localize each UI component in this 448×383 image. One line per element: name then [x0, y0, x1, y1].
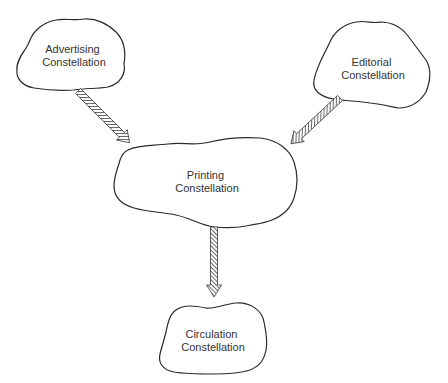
node-circulation: Circulation Constellation — [160, 303, 267, 374]
hatched-arrow-icon — [286, 93, 345, 150]
hatched-arrow-icon — [207, 227, 222, 297]
advertising-label: Advertising Constellation — [42, 43, 106, 68]
arrow-printing-to-circulation — [207, 227, 222, 297]
node-printing: Printing Constellation — [114, 138, 297, 228]
node-editorial: Editorial Constellation — [314, 21, 430, 108]
constellation-diagram: Advertising Constellation Editorial Cons… — [0, 0, 448, 383]
node-advertising: Advertising Constellation — [17, 19, 125, 91]
arrow-editorial-to-printing — [286, 93, 345, 150]
circulation-label: Circulation Constellation — [181, 328, 245, 353]
arrow-advertising-to-printing — [73, 86, 135, 148]
hatched-arrow-icon — [73, 86, 135, 148]
